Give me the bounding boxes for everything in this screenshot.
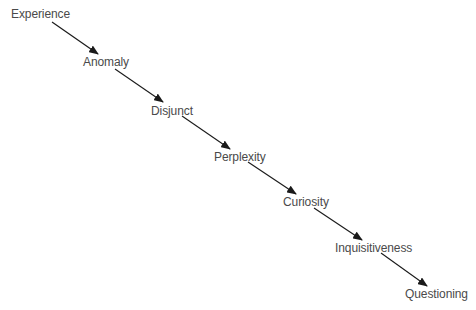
node-disjunct: Disjunct (151, 104, 193, 118)
arrow-perplexity-to-curiosity (248, 162, 296, 194)
node-perplexity: Perplexity (214, 150, 266, 164)
arrow-inquisitiveness-to-questioning (381, 253, 427, 286)
node-anomaly: Anomaly (83, 55, 129, 69)
arrow-anomaly-to-disjunct (115, 69, 163, 102)
node-inquisitiveness: Inquisitiveness (335, 241, 412, 255)
arrow-experience-to-anomaly (52, 22, 98, 54)
node-experience: Experience (11, 7, 70, 21)
node-questioning: Questioning (405, 287, 468, 301)
node-curiosity: Curiosity (283, 195, 329, 209)
arrow-curiosity-to-inquisitiveness (314, 208, 362, 240)
arrow-disjunct-to-perplexity (182, 116, 230, 149)
flow-diagram: Experience Anomaly Disjunct Perplexity C… (0, 0, 476, 310)
